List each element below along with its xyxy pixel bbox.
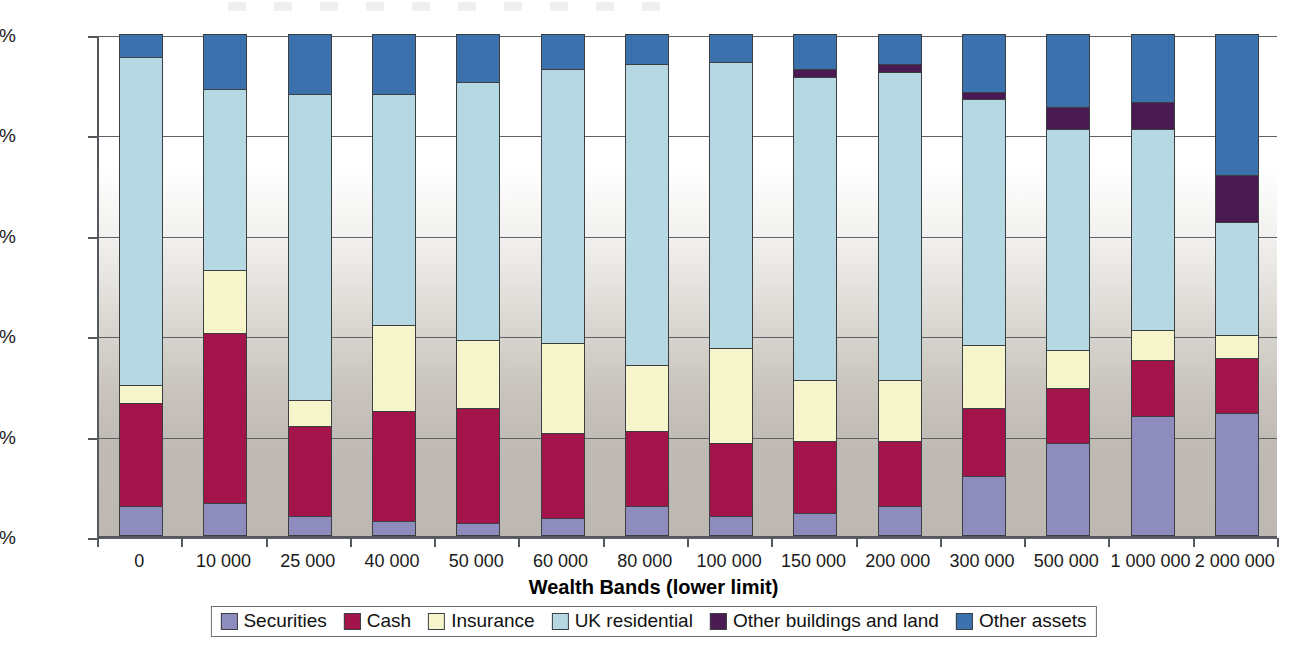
bar-segment[interactable] (1131, 416, 1175, 536)
bar-segment[interactable] (793, 513, 837, 536)
bar-segment[interactable] (962, 34, 1006, 92)
bar-segment[interactable] (1131, 34, 1175, 102)
bar-segment[interactable] (372, 521, 416, 536)
bar-segment[interactable] (288, 516, 332, 536)
legend-entry[interactable]: UK residential (552, 610, 693, 632)
legend-entry[interactable]: Other buildings and land (710, 610, 939, 632)
bar-segment[interactable] (878, 64, 922, 72)
bar-segment[interactable] (203, 89, 247, 270)
x-axis-tick-label: 2 000 000 (1195, 551, 1275, 572)
stacked-bar[interactable] (456, 34, 500, 536)
stacked-bar[interactable] (1046, 34, 1090, 536)
legend-entry[interactable]: Insurance (428, 610, 534, 632)
bar-segment[interactable] (1046, 34, 1090, 107)
bar-segment[interactable] (203, 34, 247, 89)
bar-segment[interactable] (541, 433, 585, 518)
bar-segment[interactable] (1131, 360, 1175, 415)
bar-segment[interactable] (372, 325, 416, 410)
bar-segment[interactable] (793, 34, 837, 69)
bar-segment[interactable] (1215, 413, 1259, 536)
bar-segment[interactable] (1215, 335, 1259, 358)
x-axis-tick-label: 0 (134, 551, 144, 572)
bar-segment[interactable] (962, 92, 1006, 100)
bar-segment[interactable] (203, 333, 247, 504)
bar-segment[interactable] (288, 426, 332, 516)
legend-swatch-icon (220, 613, 237, 630)
bar-segment[interactable] (1215, 175, 1259, 223)
bar-segment[interactable] (1131, 330, 1175, 360)
bar-segment[interactable] (962, 408, 1006, 476)
bar-segment[interactable] (1046, 350, 1090, 388)
bar-segment[interactable] (119, 57, 163, 386)
bar-segment[interactable] (709, 443, 753, 516)
bar-segment[interactable] (709, 516, 753, 536)
stacked-bar[interactable] (962, 34, 1006, 536)
bar-segment[interactable] (962, 476, 1006, 536)
stacked-bar[interactable] (625, 34, 669, 536)
stacked-bar[interactable] (541, 34, 585, 536)
stacked-bar[interactable] (288, 34, 332, 536)
bar-segment[interactable] (878, 506, 922, 536)
stacked-bar[interactable] (1215, 34, 1259, 536)
bar-segment[interactable] (625, 431, 669, 506)
bar-segment[interactable] (878, 72, 922, 381)
bar-segment[interactable] (372, 94, 416, 325)
bar-segment[interactable] (372, 411, 416, 521)
bar-segment[interactable] (288, 400, 332, 425)
bar-segment[interactable] (1215, 358, 1259, 413)
bar-segment[interactable] (541, 343, 585, 433)
bar-segment[interactable] (625, 365, 669, 430)
bar-segment[interactable] (541, 69, 585, 343)
legend-entry[interactable]: Securities (220, 610, 326, 632)
bar-segment[interactable] (119, 34, 163, 57)
bar-segment[interactable] (962, 99, 1006, 345)
bar-segment[interactable] (878, 441, 922, 506)
bar-segment[interactable] (709, 62, 753, 348)
bar-segment[interactable] (119, 506, 163, 536)
bar-segment[interactable] (625, 506, 669, 536)
x-axis-tick-mark (1277, 538, 1279, 547)
bar-segment[interactable] (456, 523, 500, 536)
stacked-bar[interactable] (203, 34, 247, 536)
bar-segment[interactable] (1131, 102, 1175, 130)
bar-segment[interactable] (456, 408, 500, 523)
stacked-bar[interactable] (793, 34, 837, 536)
bar-segment[interactable] (962, 345, 1006, 408)
bar-segment[interactable] (625, 64, 669, 365)
bar-segment[interactable] (288, 34, 332, 94)
bar-segment[interactable] (119, 403, 163, 506)
legend-entry[interactable]: Cash (344, 610, 411, 632)
bar-segment[interactable] (203, 503, 247, 536)
bar-segment[interactable] (203, 270, 247, 333)
bar-segment[interactable] (1046, 129, 1090, 350)
bar-segment[interactable] (541, 34, 585, 69)
legend-entry[interactable]: Other assets (956, 610, 1087, 632)
bar-segment[interactable] (119, 385, 163, 403)
bar-segment[interactable] (709, 34, 753, 62)
bar-segment[interactable] (1215, 222, 1259, 335)
bar-segment[interactable] (372, 34, 416, 94)
bar-segment[interactable] (793, 441, 837, 514)
stacked-bar[interactable] (372, 34, 416, 536)
bar-segment[interactable] (1215, 34, 1259, 175)
bar-segment[interactable] (456, 340, 500, 408)
bar-segment[interactable] (456, 34, 500, 82)
bar-segment[interactable] (709, 348, 753, 443)
bar-segment[interactable] (793, 380, 837, 440)
stacked-bar[interactable] (878, 34, 922, 536)
bar-segment[interactable] (793, 77, 837, 381)
bar-segment[interactable] (793, 69, 837, 77)
bar-segment[interactable] (878, 380, 922, 440)
bar-segment[interactable] (541, 518, 585, 536)
bar-segment[interactable] (625, 34, 669, 64)
bar-segment[interactable] (1046, 443, 1090, 536)
bar-segment[interactable] (1131, 129, 1175, 330)
bar-segment[interactable] (288, 94, 332, 400)
bar-segment[interactable] (1046, 388, 1090, 443)
bar-segment[interactable] (1046, 107, 1090, 130)
stacked-bar[interactable] (119, 34, 163, 536)
stacked-bar[interactable] (1131, 34, 1175, 536)
bar-segment[interactable] (456, 82, 500, 341)
stacked-bar[interactable] (709, 34, 753, 536)
bar-segment[interactable] (878, 34, 922, 64)
